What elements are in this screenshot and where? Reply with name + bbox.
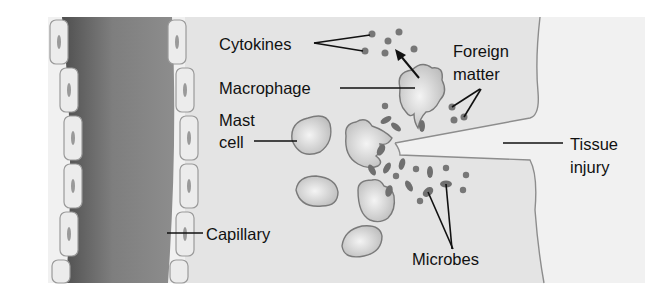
mast-cell xyxy=(292,116,331,154)
label-foreign-matter-line1: Foreign xyxy=(453,42,509,60)
neutrophil-left xyxy=(296,176,338,206)
label-tissue-injury-line2: injury xyxy=(570,158,610,176)
label-foreign-matter-line2: matter xyxy=(453,65,500,83)
label-capillary: Capillary xyxy=(206,225,271,243)
label-mast-cell-line2: cell xyxy=(219,133,244,151)
label-cytokines: Cytokines xyxy=(219,35,291,53)
inflammation-diagram: Cytokines Macrophage Mast cell Foreign m… xyxy=(0,0,663,299)
label-mast-cell-line1: Mast xyxy=(219,111,255,129)
label-tissue-injury-line1: Tissue xyxy=(570,135,618,153)
label-macrophage: Macrophage xyxy=(219,79,311,97)
label-microbes: Microbes xyxy=(412,250,479,268)
